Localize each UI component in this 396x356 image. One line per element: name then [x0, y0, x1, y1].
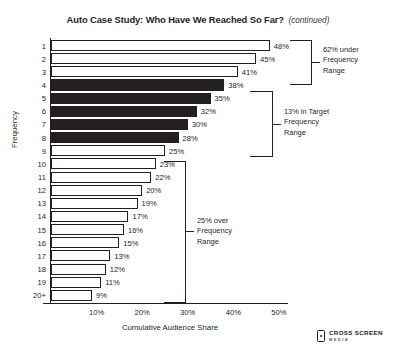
x-axis-line: [43, 303, 288, 304]
bar-row: 438%: [51, 79, 288, 90]
chart-page: Auto Case Study: Who Have We Reached So …: [0, 0, 396, 356]
bar-value-label: 30%: [192, 120, 207, 129]
bar-category-label: 17: [38, 251, 46, 260]
bar: [51, 185, 142, 196]
bar-category-label: 16: [38, 238, 46, 247]
bracket-under: [290, 40, 312, 85]
bracket-target: [250, 91, 273, 157]
annotation-target-line3: Range: [284, 128, 329, 138]
annotation-target: 13% in Target Frequency Range: [284, 107, 329, 138]
bar-value-label: 41%: [242, 67, 257, 76]
bar-value-label: 35%: [215, 94, 230, 103]
page-title: Auto Case Study: Who Have We Reached So …: [0, 9, 396, 27]
bar-category-label: 11: [38, 173, 46, 182]
annotation-under-line2: Frequency: [323, 55, 359, 65]
bar-value-label: 20%: [146, 186, 161, 195]
bar-category-label: 7: [42, 120, 46, 129]
bracket-over: [164, 161, 186, 303]
annotation-over: 25% over Frequency Range: [197, 216, 232, 247]
x-axis-tick-label: 20%: [135, 308, 150, 317]
logo-text: CROSS SCREEN MEDIA: [329, 330, 383, 342]
bar-category-label: 5: [42, 94, 46, 103]
annotation-over-line3: Range: [197, 237, 232, 247]
bar-value-label: 13%: [114, 251, 129, 260]
bar: [51, 145, 165, 156]
bar-category-label: 20+: [33, 291, 46, 300]
bar-category-label: 4: [42, 80, 46, 89]
bar: [51, 66, 238, 77]
annotation-under-line1: 62% under: [323, 45, 359, 55]
bar: [51, 211, 128, 222]
bar-value-label: 32%: [201, 107, 216, 116]
title-main-text: Auto Case Study: Who Have We Reached So …: [67, 14, 284, 25]
annotation-target-line2: Frequency: [284, 117, 329, 127]
bar-row: 341%: [51, 66, 288, 77]
x-axis-tick-label: 30%: [180, 308, 195, 317]
annotation-over-line1: 25% over: [197, 216, 232, 226]
bar: [51, 119, 188, 130]
bar-value-label: 45%: [260, 54, 275, 63]
bar: [51, 53, 256, 64]
logo-line2: MEDIA: [329, 338, 383, 342]
bar: [51, 172, 151, 183]
bar: [51, 93, 211, 104]
bar: [51, 79, 224, 90]
bar-category-label: 8: [42, 133, 46, 142]
bar: [51, 250, 110, 261]
annotation-under-line3: Range: [323, 66, 359, 76]
bar-value-label: 15%: [123, 238, 138, 247]
bar-value-label: 38%: [228, 80, 243, 89]
x-axis-tick-label: 10%: [89, 308, 104, 317]
bar-category-label: 19: [38, 278, 46, 287]
bar-category-label: 14: [38, 212, 46, 221]
title-continued-text: (continued): [288, 16, 329, 25]
x-axis-tick-label: 40%: [226, 308, 241, 317]
bar: [51, 158, 156, 169]
bar: [51, 277, 101, 288]
annotation-target-line1: 13% in Target: [284, 107, 329, 117]
brand-logo: CROSS SCREEN MEDIA: [317, 330, 383, 342]
bar: [51, 40, 270, 51]
bar-category-label: 3: [42, 67, 46, 76]
y-axis-title: Frequency: [10, 111, 19, 148]
bar: [51, 224, 124, 235]
bar-category-label: 12: [38, 186, 46, 195]
bar-category-label: 1: [42, 41, 46, 50]
bar: [51, 198, 138, 209]
annotation-under: 62% under Frequency Range: [323, 45, 359, 76]
bar-category-label: 15: [38, 225, 46, 234]
bar: [51, 237, 119, 248]
bar-row: 245%: [51, 53, 288, 64]
bar-row: 148%: [51, 40, 288, 51]
bar-category-label: 10: [38, 159, 46, 168]
bar-value-label: 48%: [274, 41, 289, 50]
annotation-over-line2: Frequency: [197, 226, 232, 236]
bar-value-label: 19%: [142, 199, 157, 208]
bar: [51, 132, 179, 143]
x-axis-tick-label: 50%: [271, 308, 286, 317]
logo-line1: CROSS SCREEN: [329, 330, 383, 336]
bar-category-label: 18: [38, 265, 46, 274]
device-icon: [317, 330, 325, 342]
bar: [51, 264, 106, 275]
x-axis-title: Cumulative Audience Share: [0, 323, 340, 332]
bar: [51, 106, 197, 117]
bar-value-label: 9%: [96, 291, 107, 300]
bar-value-label: 12%: [110, 265, 125, 274]
bar-value-label: 25%: [169, 146, 184, 155]
bar-value-label: 11%: [105, 278, 120, 287]
bar-category-label: 13: [38, 199, 46, 208]
bar-category-label: 9: [42, 146, 46, 155]
bar: [51, 290, 92, 301]
bar-value-label: 16%: [128, 225, 143, 234]
bar-value-label: 28%: [183, 133, 198, 142]
bar-category-label: 2: [42, 54, 46, 63]
bar-category-label: 6: [42, 107, 46, 116]
bar-value-label: 17%: [132, 212, 147, 221]
